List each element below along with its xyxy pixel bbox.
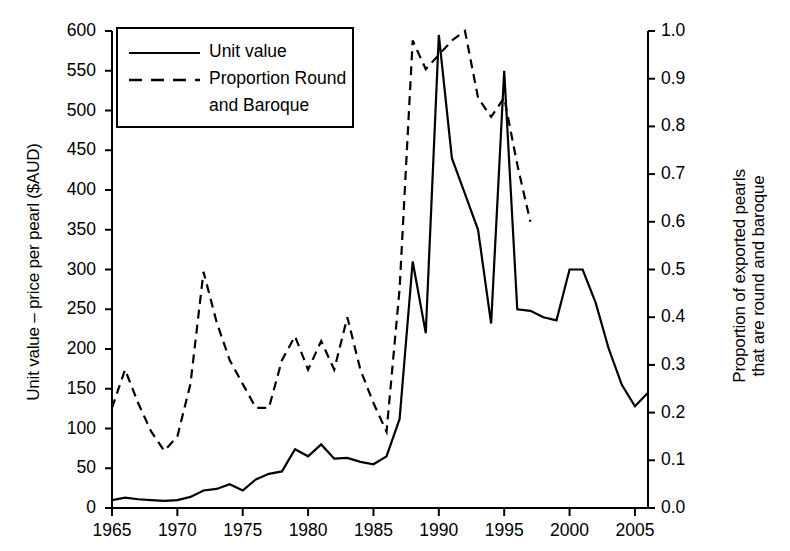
left-tick-label: 350: [40, 219, 96, 240]
left-tick-label: 250: [40, 298, 96, 319]
right-tick-label: 0.3: [661, 354, 717, 375]
chart-figure: Unit value – price per pearl ($AUD) Prop…: [0, 0, 790, 551]
left-tick-label: 500: [40, 100, 96, 121]
x-tick-label: 1995: [469, 520, 539, 541]
x-tick-label: 1970: [142, 520, 212, 541]
legend-item-label-0: Unit value: [209, 41, 287, 62]
right-tick-label: 0.7: [661, 163, 717, 184]
x-tick-label: 2000: [535, 520, 605, 541]
legend-item-label-2: and Baroque: [209, 95, 309, 116]
left-tick-label: 0: [40, 497, 96, 518]
right-axis-label-line2: that are round and baroque: [749, 96, 769, 456]
right-tick-label: 0.1: [661, 449, 717, 470]
x-tick-label: 1985: [338, 520, 408, 541]
legend-item-label-1: Proportion Round: [209, 68, 346, 89]
left-tick-label: 600: [40, 20, 96, 41]
right-tick-label: 0.2: [661, 402, 717, 423]
right-tick-label: 1.0: [661, 20, 717, 41]
left-tick-label: 200: [40, 338, 96, 359]
right-tick-label: 0.4: [661, 306, 717, 327]
left-tick-label: 50: [40, 457, 96, 478]
right-tick-label: 0.6: [661, 211, 717, 232]
left-tick-label: 400: [40, 179, 96, 200]
x-tick-label: 2005: [600, 520, 670, 541]
x-tick-label: 1975: [208, 520, 278, 541]
right-tick-label: 0.5: [661, 259, 717, 280]
left-tick-label: 450: [40, 139, 96, 160]
left-tick-label: 150: [40, 378, 96, 399]
right-tick-label: 0.0: [661, 497, 717, 518]
right-tick-label: 0.8: [661, 115, 717, 136]
right-axis-label-line1: Proportion of exported pearls: [730, 96, 750, 456]
right-tick-label: 0.9: [661, 68, 717, 89]
x-tick-label: 1990: [404, 520, 474, 541]
left-tick-label: 100: [40, 418, 96, 439]
x-tick-label: 1965: [77, 520, 147, 541]
x-tick-label: 1980: [273, 520, 343, 541]
left-tick-label: 550: [40, 60, 96, 81]
left-tick-label: 300: [40, 259, 96, 280]
